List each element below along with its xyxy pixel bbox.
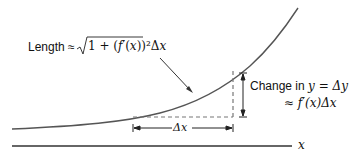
length-pointer-arrow bbox=[160, 58, 193, 93]
change-in-y-label: Change in y = Δy bbox=[250, 80, 348, 92]
change-math: y = Δy bbox=[308, 79, 348, 93]
approx-label: ≈ f′(x)Δx bbox=[284, 97, 337, 109]
length-label: Length ≈ bbox=[28, 41, 75, 53]
change-text: Change in bbox=[250, 79, 308, 93]
x-axis-label: x bbox=[298, 139, 305, 151]
delta-x-label: Δx bbox=[173, 122, 187, 133]
function-curve bbox=[12, 8, 298, 129]
length-prefix: Length ≈ bbox=[28, 40, 75, 54]
length-formula: 1 + (f′(x))²Δx bbox=[88, 40, 166, 52]
delta-y-arrow bbox=[239, 73, 247, 117]
